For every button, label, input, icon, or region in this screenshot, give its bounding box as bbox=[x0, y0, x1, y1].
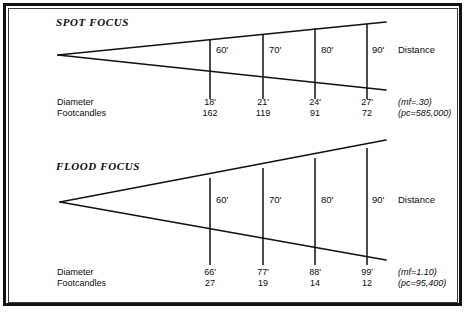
flood-peak-candela-note: (pc=95,400) bbox=[398, 278, 446, 288]
spot-diameter-value-80: 24' bbox=[309, 97, 321, 107]
flood-tick-label-60: 60' bbox=[216, 194, 228, 205]
flood-diameter-row-label: Diameter bbox=[57, 267, 94, 277]
spot-focus-title: SPOT FOCUS bbox=[56, 16, 129, 28]
spot-footcandles-value-90: 72 bbox=[362, 108, 372, 118]
spot-footcandles-value-80: 91 bbox=[310, 108, 320, 118]
spot-tick-label-60: 60' bbox=[216, 44, 228, 55]
spot-diameter-value-70: 21' bbox=[257, 97, 269, 107]
flood-diameter-value-90: 99' bbox=[361, 267, 373, 277]
flood-focus-title: FLOOD FOCUS bbox=[56, 160, 140, 172]
spot-footcandles-value-70: 119 bbox=[256, 108, 270, 118]
spot-tick-label-80: 80' bbox=[321, 44, 333, 55]
flood-footcandles-value-70: 19 bbox=[258, 278, 268, 288]
flood-diameter-value-70: 77' bbox=[257, 267, 269, 277]
spot-peak-candela-note: (pc=585,000) bbox=[398, 108, 451, 118]
flood-distance-axis-caption: Distance bbox=[398, 194, 435, 205]
spot-footcandles-value-60: 162 bbox=[202, 108, 217, 118]
spot-footcandles-row-label: Footcandles bbox=[57, 108, 106, 118]
flood-footcandles-value-80: 14 bbox=[310, 278, 320, 288]
spot-tick-label-90: 90' bbox=[372, 44, 384, 55]
flood-tick-label-80: 80' bbox=[321, 194, 333, 205]
spot-multiplying-factor-note: (mf=.30) bbox=[398, 97, 432, 107]
flood-tick-label-70: 70' bbox=[269, 194, 281, 205]
spot-beam-cone bbox=[58, 22, 386, 90]
spot-cone-lower-edge bbox=[58, 55, 386, 90]
flood-footcandles-value-60: 27 bbox=[205, 278, 215, 288]
spot-diameter-row-label: Diameter bbox=[57, 97, 94, 107]
spot-diameter-value-60: 18' bbox=[204, 97, 216, 107]
flood-footcandles-value-90: 12 bbox=[362, 278, 372, 288]
flood-tick-label-90: 90' bbox=[372, 194, 384, 205]
flood-multiplying-factor-note: (mf=1.10) bbox=[398, 267, 437, 277]
flood-distance-gridlines bbox=[210, 148, 367, 265]
spot-distance-gridlines bbox=[210, 24, 367, 99]
flood-footcandles-row-label: Footcandles bbox=[57, 278, 106, 288]
flood-cone-lower-edge bbox=[60, 202, 386, 260]
spot-diameter-value-90: 27' bbox=[361, 97, 373, 107]
flood-diameter-value-60: 66' bbox=[204, 267, 216, 277]
spot-distance-axis-caption: Distance bbox=[398, 44, 435, 55]
flood-diameter-value-80: 88' bbox=[309, 267, 321, 277]
spot-tick-label-70: 70' bbox=[269, 44, 281, 55]
figure-page: SPOT FOCUS 60' 70' 80' 90' Distance Diam… bbox=[0, 0, 471, 315]
